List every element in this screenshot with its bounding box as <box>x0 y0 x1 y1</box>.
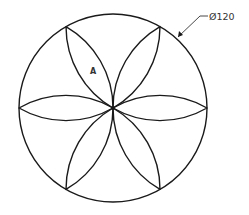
leader-line <box>178 16 208 37</box>
diameter-dimension: Ø120 <box>178 11 235 37</box>
dimension-text: Ø120 <box>209 11 235 22</box>
petal <box>113 95 207 120</box>
drawing-canvas: Ø120 A <box>0 0 249 215</box>
leader-arrowhead <box>178 31 183 37</box>
region-label-a: A <box>90 67 97 76</box>
petal <box>19 95 113 120</box>
center-point <box>111 106 115 110</box>
